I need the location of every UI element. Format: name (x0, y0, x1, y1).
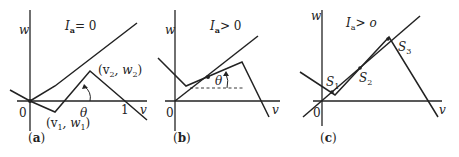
w-axis-label: w (19, 23, 30, 37)
origin-label: 0 (19, 106, 27, 120)
panel-c: Ia> o w v 0 S1 S2 S3 (c) (300, 9, 446, 145)
nullcline-diagram: Ia= 0 w v 0 1 θ (v1, w1) (v2, w2) (a) Ia… (0, 0, 459, 157)
w-nullcline-line (30, 23, 137, 101)
panel-c-title: Ia> o (345, 16, 377, 32)
fixed-point-s2 (358, 66, 362, 70)
angle-theta-label: θ (215, 74, 223, 88)
equilibrium-point (206, 75, 210, 79)
w-axis-label: w (165, 23, 176, 37)
equilibrium-point (28, 99, 32, 103)
v-axis-label: v (272, 103, 279, 117)
s2-label: S2 (359, 71, 372, 87)
angle-arrowhead-icon (223, 71, 229, 76)
panel-c-caption: (c) (320, 131, 337, 145)
panel-b: Ia> 0 w v 0 θ (b) (158, 10, 280, 145)
v-axis-label: v (439, 103, 446, 117)
tick-label-1: 1 (121, 103, 129, 117)
angle-arc (226, 74, 228, 88)
s1-label: S1 (326, 75, 339, 91)
panel-a-title: Ia= 0 (64, 19, 96, 35)
s3-label: S3 (398, 40, 411, 56)
v-axis-label: v (140, 103, 147, 117)
w-axis-label: w (311, 9, 322, 23)
origin-label: 0 (313, 106, 321, 120)
v-nullcline-piecewise (300, 37, 438, 117)
panel-a: Ia= 0 w v 0 1 θ (v1, w1) (v2, w2) (a) (10, 10, 147, 145)
panel-b-caption: (b) (173, 131, 191, 145)
point-v2-w2-label: (v2, w2) (98, 63, 142, 79)
panel-a-caption: (a) (28, 131, 45, 145)
panel-b-title: Ia> 0 (209, 19, 241, 35)
origin-label: 0 (166, 106, 174, 120)
fixed-point-s3 (386, 37, 390, 41)
